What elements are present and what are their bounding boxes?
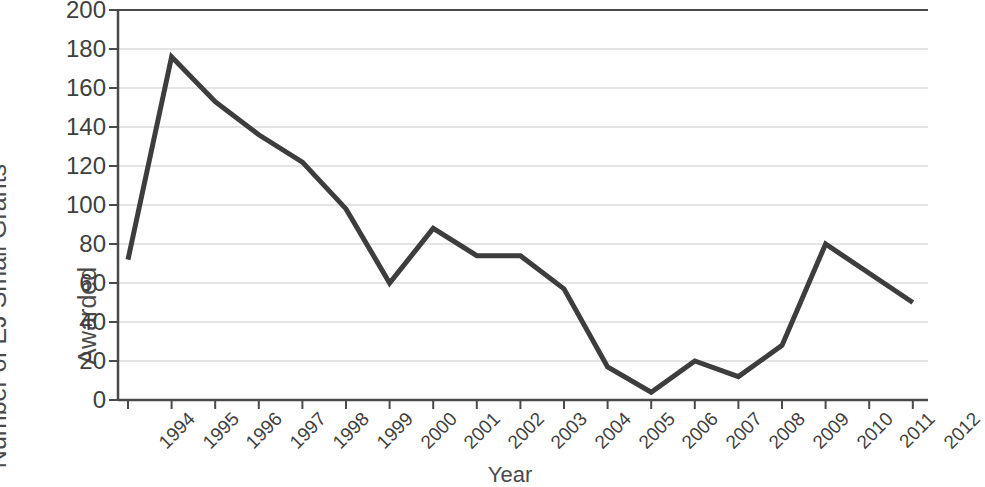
- x-axis-title: Year: [430, 462, 590, 487]
- x-axis-tick-label: 2002: [503, 408, 548, 453]
- x-axis-tick-label: 2001: [460, 408, 505, 453]
- x-axis-tick-label: 1997: [285, 408, 330, 453]
- x-axis-tick-label: 2010: [852, 408, 897, 453]
- x-axis-tick-label: 2005: [634, 408, 679, 453]
- x-axis-tick-label: 2009: [808, 408, 853, 453]
- x-axis-tick-label: 2008: [765, 408, 810, 453]
- x-axis-tick-label: 1998: [329, 408, 374, 453]
- x-axis-tick-label: 2004: [590, 408, 635, 453]
- x-axis-tick-label: 1996: [242, 408, 287, 453]
- x-axis-tick-label: 2007: [721, 408, 766, 453]
- x-axis-tick-label: 1995: [198, 408, 243, 453]
- x-axis-tick-label: 2000: [416, 408, 461, 453]
- x-axis-tick-label: 2011: [895, 408, 939, 452]
- x-axis-tick-label: 2006: [678, 408, 723, 453]
- x-axis-tick-label: 2003: [547, 408, 592, 453]
- x-axis-tick-label: 1999: [372, 408, 417, 453]
- x-axis-tick-label: 1994: [154, 408, 199, 453]
- x-axis-tick-label: 2012: [939, 408, 984, 453]
